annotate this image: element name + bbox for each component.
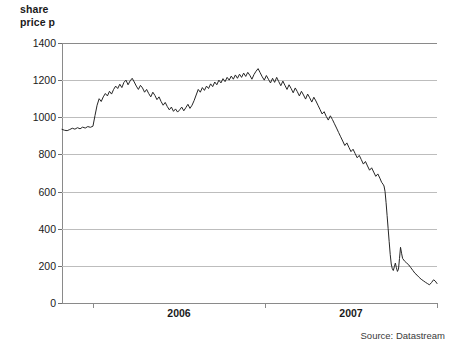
x-axis-line bbox=[62, 303, 437, 304]
series-layer bbox=[62, 43, 437, 303]
y-tick-mark-400 bbox=[58, 229, 62, 230]
x-tick-mark-2008 bbox=[437, 303, 438, 308]
source-note: Source: Datastream bbox=[361, 330, 445, 341]
x-tick-label-2007: 2007 bbox=[339, 307, 362, 319]
y-tick-mark-1400 bbox=[58, 43, 62, 44]
y-tick-mark-1000 bbox=[58, 117, 62, 118]
series-line-share-price bbox=[62, 69, 437, 285]
y-axis-title: share price p bbox=[20, 3, 55, 29]
y-tick-label-1200: 1200 bbox=[12, 74, 56, 86]
y-tick-mark-800 bbox=[58, 154, 62, 155]
y-tick-label-0: 0 bbox=[12, 297, 56, 309]
y-tick-label-1400: 1400 bbox=[12, 37, 56, 49]
x-tick-mark-2007 bbox=[265, 303, 266, 308]
x-tick-label-2006: 2006 bbox=[167, 307, 190, 319]
y-tick-label-400: 400 bbox=[12, 223, 56, 235]
y-tick-mark-600 bbox=[58, 192, 62, 193]
y-tick-mark-200 bbox=[58, 266, 62, 267]
y-tick-mark-0 bbox=[58, 303, 62, 304]
share-price-chart: share price p 0200400600800100012001400 … bbox=[0, 0, 457, 350]
y-tick-label-200: 200 bbox=[12, 260, 56, 272]
y-tick-label-1000: 1000 bbox=[12, 111, 56, 123]
y-tick-label-800: 800 bbox=[12, 148, 56, 160]
y-tick-label-600: 600 bbox=[12, 186, 56, 198]
y-tick-mark-1200 bbox=[58, 80, 62, 81]
x-tick-mark-2006 bbox=[93, 303, 94, 308]
